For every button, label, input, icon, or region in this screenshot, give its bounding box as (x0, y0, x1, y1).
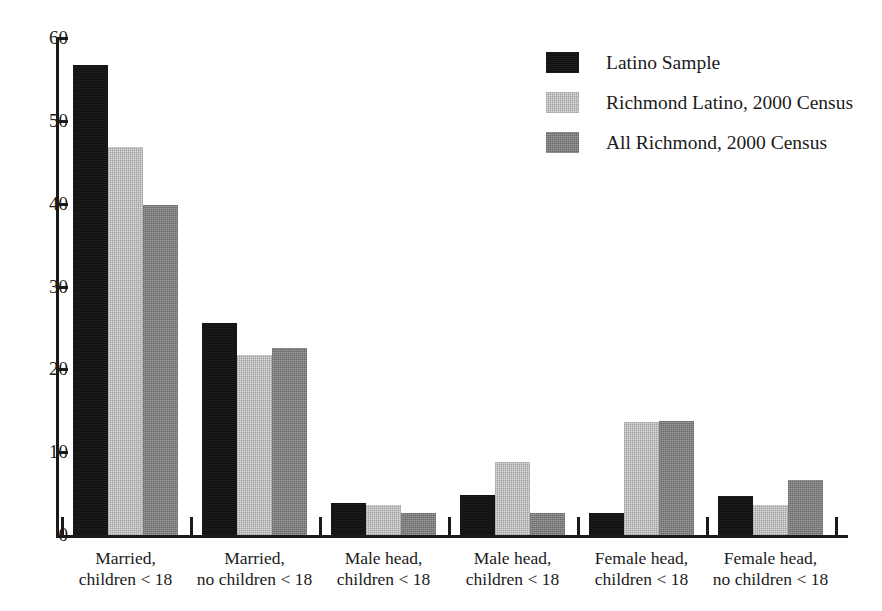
bar (401, 513, 436, 535)
category-label-line1: Male head, (345, 548, 423, 568)
y-tick-mark (56, 451, 68, 454)
legend-label: Latino Sample (606, 46, 720, 79)
legend-swatch-icon (546, 52, 579, 73)
legend-label: Richmond Latino, 2000 Census (606, 86, 853, 119)
x-tick-mark (706, 517, 709, 537)
bar (331, 503, 366, 535)
bar (460, 495, 495, 535)
bar (272, 348, 307, 535)
category-label: Female head,no children < 18 (681, 548, 861, 590)
category-label-line2: no children < 18 (681, 569, 861, 590)
x-axis-line (56, 535, 848, 538)
legend-swatch-icon (546, 132, 579, 153)
x-tick-mark (319, 517, 322, 537)
category-label-line1: Male head, (474, 548, 552, 568)
legend-swatch-icon (546, 92, 579, 113)
bar (659, 421, 694, 535)
y-tick-mark (56, 286, 68, 289)
category-label-line1: Female head, (595, 548, 688, 568)
category-label-line1: Married, (95, 548, 156, 568)
bar (589, 513, 624, 535)
bar-chart: 0102030405060 Married,children < 18Marri… (0, 0, 882, 611)
bar (108, 147, 143, 535)
y-tick-mark (56, 37, 68, 40)
x-tick-mark (190, 517, 193, 537)
y-tick-mark (56, 120, 68, 123)
x-tick-mark (448, 517, 451, 537)
bar (202, 323, 237, 535)
x-tick-mark (61, 517, 64, 537)
bar (530, 513, 565, 535)
bar (237, 355, 272, 535)
bar (143, 205, 178, 535)
bar (753, 505, 788, 535)
bar (788, 480, 823, 535)
bar (366, 505, 401, 535)
bar (73, 65, 108, 535)
category-label-line1: Female head, (724, 548, 817, 568)
legend-label: All Richmond, 2000 Census (606, 126, 827, 159)
bar (718, 496, 753, 535)
x-tick-mark (835, 517, 838, 537)
y-tick-mark (56, 203, 68, 206)
bar (624, 422, 659, 535)
x-tick-mark (577, 517, 580, 537)
category-label-line1: Married, (224, 548, 285, 568)
y-tick-mark (56, 368, 68, 371)
bar (495, 462, 530, 535)
